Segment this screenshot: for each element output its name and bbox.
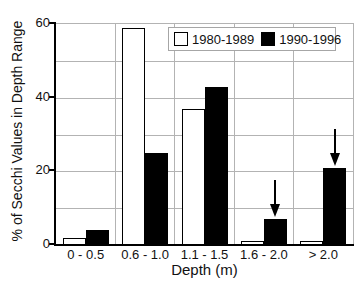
- y-tick-label: 20: [20, 162, 50, 178]
- down-arrow: [270, 180, 281, 217]
- bar-1990-1996-0.6 - 1.0: [145, 153, 168, 245]
- category-label: 1.1 - 1.5: [181, 247, 229, 262]
- gridline-vertical: [293, 24, 294, 245]
- legend-swatch-1980-1989: [174, 32, 188, 46]
- legend-label-1980-1989: 1980-1989: [192, 32, 254, 47]
- bar-1980-1989-1.1 - 1.5: [182, 109, 205, 245]
- y-tick-label: 0: [20, 236, 50, 252]
- down-arrow-shaft: [334, 129, 336, 154]
- down-arrow-head: [270, 204, 280, 217]
- y-axis-title-text: % of Secchi Values in Depth Range: [9, 21, 25, 242]
- bar-1990-1996-0 - 0.5: [86, 230, 109, 245]
- bar-1990-1996-1.6 - 2.0: [264, 219, 287, 245]
- gridline-vertical: [234, 24, 235, 245]
- down-arrow-head: [330, 153, 340, 166]
- legend: 1980-1989 1990-1996: [168, 27, 336, 51]
- category-label: 1.6 - 2.0: [240, 247, 288, 262]
- plot-area: [56, 23, 354, 245]
- gridline-horizontal: [56, 61, 353, 62]
- bar-1980-1989-0.6 - 1.0: [122, 28, 145, 245]
- category-label: 0.6 - 1.0: [121, 247, 169, 262]
- bar-1990-1996-1.1 - 1.5: [205, 87, 228, 245]
- gridline-vertical: [115, 24, 116, 245]
- legend-label-1990-1996: 1990-1996: [279, 32, 341, 47]
- legend-swatch-1990-1996: [261, 32, 275, 46]
- y-tick-label: 60: [20, 15, 50, 31]
- x-axis-title: Depth (m): [56, 261, 353, 278]
- category-label: 0 - 0.5: [67, 247, 104, 262]
- down-arrow: [329, 129, 340, 166]
- gridline-vertical: [174, 24, 175, 245]
- bar-1990-1996-> 2.0: [323, 168, 346, 245]
- y-axis-line: [54, 22, 56, 246]
- x-axis-line: [54, 244, 354, 246]
- down-arrow-shaft: [274, 180, 276, 205]
- secchi-depth-bar-chart: % of Secchi Values in Depth Range 020406…: [0, 0, 362, 292]
- y-tick-label: 40: [20, 89, 50, 105]
- category-label: > 2.0: [309, 247, 338, 262]
